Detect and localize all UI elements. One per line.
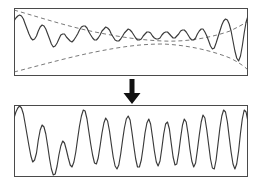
bottom-panel-frame — [15, 106, 248, 177]
bottom-panel — [14, 106, 248, 177]
top-panel — [14, 9, 248, 76]
top-panel-frame — [15, 9, 248, 76]
normalization-figure — [0, 0, 262, 188]
